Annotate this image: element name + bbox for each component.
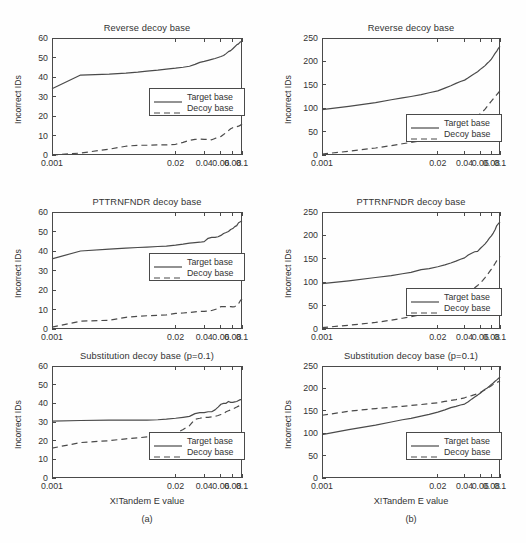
x-tick-mark-top bbox=[480, 366, 481, 370]
y-tick-mark bbox=[322, 155, 326, 156]
legend-label-target: Target base bbox=[444, 436, 490, 446]
x-tick-mark-top bbox=[232, 212, 233, 216]
x-tick-label: 0.06 bbox=[472, 332, 489, 342]
legend-label-target: Target base bbox=[187, 257, 233, 267]
y-tick-mark bbox=[52, 384, 56, 385]
legend-label-decoy: Decoy base bbox=[444, 447, 490, 457]
y-tick-label: 0 bbox=[19, 150, 48, 160]
y-tick-label: 150 bbox=[289, 80, 318, 90]
y-axis-label: Incorrect IDs bbox=[283, 400, 293, 449]
x-tick-mark bbox=[480, 151, 481, 155]
x-tick-label: 0.02 bbox=[429, 481, 446, 491]
y-tick-label: 100 bbox=[289, 428, 318, 438]
x-tick-label: 0.001 bbox=[311, 481, 333, 491]
x-tick-label: 0.06 bbox=[212, 332, 229, 342]
legend-item-target: Target base bbox=[153, 435, 240, 446]
y-tick-label: 150 bbox=[289, 254, 318, 264]
y-tick-mark bbox=[52, 57, 56, 58]
x-tick-mark bbox=[480, 474, 481, 478]
y-tick-label: 40 bbox=[19, 246, 48, 256]
x-tick-mark-top bbox=[464, 38, 465, 42]
y-tick-mark bbox=[52, 478, 56, 479]
y-axis-label: Incorrect IDs bbox=[283, 249, 293, 298]
x-tick-mark-top bbox=[242, 212, 243, 216]
chart-title: Reverse decoy base bbox=[52, 23, 242, 33]
x-tick-label: 0.001 bbox=[311, 332, 333, 342]
x-tick-label: 0.08 bbox=[483, 158, 500, 168]
chart-panel-a2: PTTRNFNDR decoy baseIncorrect IDs0102030… bbox=[0, 0, 526, 543]
x-tick-label: 0.04 bbox=[196, 332, 213, 342]
y-tick-label: 50 bbox=[289, 127, 318, 137]
plot-area bbox=[322, 212, 500, 329]
y-tick-label: 0 bbox=[19, 473, 48, 483]
chart-title: Reverse decoy base bbox=[322, 23, 500, 33]
y-tick-mark bbox=[52, 135, 56, 136]
x-tick-mark bbox=[500, 151, 501, 155]
x-tick-label: 0.08 bbox=[224, 481, 241, 491]
y-tick-mark bbox=[322, 478, 326, 479]
y-tick-label: 60 bbox=[19, 207, 48, 217]
x-tick-label: 0.02 bbox=[167, 332, 184, 342]
chart-legend: Target baseDecoy base bbox=[406, 114, 502, 142]
y-tick-label: 30 bbox=[19, 266, 48, 276]
x-tick-mark-top bbox=[220, 366, 221, 370]
chart-panel-b3: Substitution decoy base (p=0.1)Incorrect… bbox=[0, 0, 526, 543]
x-tick-mark bbox=[322, 325, 323, 329]
legend-label-target: Target base bbox=[187, 436, 233, 446]
x-tick-mark bbox=[220, 325, 221, 329]
x-tick-mark-top bbox=[322, 38, 323, 42]
x-tick-mark bbox=[437, 474, 438, 478]
x-tick-mark-top bbox=[204, 38, 205, 42]
legend-item-decoy: Decoy base bbox=[410, 302, 497, 313]
chart-legend: Target baseDecoy base bbox=[149, 253, 245, 281]
chart-curves bbox=[0, 0, 526, 543]
x-tick-mark-top bbox=[464, 366, 465, 370]
x-tick-mark-top bbox=[52, 212, 53, 216]
x-tick-mark-top bbox=[52, 366, 53, 370]
x-tick-label: 0.02 bbox=[429, 332, 446, 342]
y-tick-label: 20 bbox=[19, 285, 48, 295]
decoy-base-curve bbox=[52, 404, 242, 448]
x-tick-mark bbox=[500, 325, 501, 329]
y-tick-label: 0 bbox=[289, 324, 318, 334]
x-tick-mark-top bbox=[480, 212, 481, 216]
chart-curves bbox=[0, 0, 526, 543]
y-tick-mark bbox=[52, 38, 56, 39]
y-tick-mark bbox=[322, 258, 326, 259]
legend-label-decoy: Decoy base bbox=[444, 129, 490, 139]
x-tick-mark bbox=[204, 325, 205, 329]
legend-label-target: Target base bbox=[187, 92, 233, 102]
y-tick-label: 30 bbox=[19, 92, 48, 102]
x-tick-mark-top bbox=[437, 366, 438, 370]
chart-panel-a3: Substitution decoy base (p=0.1)Incorrect… bbox=[0, 0, 526, 543]
y-tick-label: 10 bbox=[19, 454, 48, 464]
y-tick-mark bbox=[322, 410, 326, 411]
x-tick-label: 0.001 bbox=[41, 332, 63, 342]
y-tick-label: 200 bbox=[289, 230, 318, 240]
y-tick-mark bbox=[52, 440, 56, 441]
x-tick-mark bbox=[491, 474, 492, 478]
x-tick-mark bbox=[220, 151, 221, 155]
legend-item-decoy: Decoy base bbox=[410, 446, 497, 457]
x-tick-mark-top bbox=[232, 38, 233, 42]
y-tick-label: 50 bbox=[289, 451, 318, 461]
x-tick-mark-top bbox=[491, 38, 492, 42]
x-tick-mark bbox=[322, 474, 323, 478]
x-tick-label: 0.04 bbox=[196, 158, 213, 168]
chart-curves bbox=[0, 0, 526, 543]
x-tick-mark bbox=[232, 474, 233, 478]
legend-item-decoy: Decoy base bbox=[153, 446, 240, 457]
x-tick-label: 0.08 bbox=[224, 158, 241, 168]
y-tick-mark bbox=[52, 212, 56, 213]
y-tick-mark bbox=[52, 116, 56, 117]
y-tick-mark bbox=[322, 388, 326, 389]
x-tick-mark-top bbox=[437, 38, 438, 42]
decoy-base-curve bbox=[52, 299, 242, 327]
y-tick-label: 50 bbox=[19, 227, 48, 237]
x-tick-label: 0.1 bbox=[236, 481, 248, 491]
x-tick-mark bbox=[232, 325, 233, 329]
target-base-curve bbox=[52, 221, 242, 259]
x-tick-mark-top bbox=[204, 212, 205, 216]
legend-line-sample-target bbox=[410, 118, 440, 127]
y-tick-label: 20 bbox=[19, 111, 48, 121]
